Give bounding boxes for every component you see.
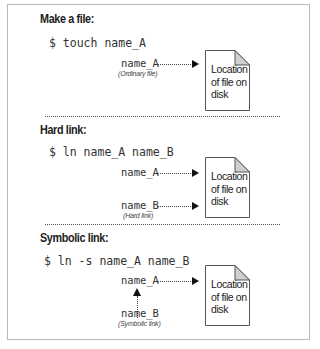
section-heading-symbolic-link: Symbolic link: — [40, 231, 108, 245]
filename-name-b: name_B — [121, 307, 159, 319]
file-location-label: Location of file on disk — [211, 278, 251, 316]
arrow-line — [157, 206, 193, 207]
command-touch: $ touch name_A — [49, 36, 146, 50]
arrowhead-right-icon — [192, 60, 199, 68]
file-document-icon: Location of file on disk — [205, 157, 250, 218]
arrowhead-up-icon — [133, 288, 141, 296]
filename-name-a: name_A — [121, 166, 159, 178]
filename-name-a: name_A — [121, 274, 159, 286]
caption-ordinary-file: (Ordinary file) — [118, 70, 157, 77]
section-heading-hard-link: Hard link: — [40, 123, 86, 137]
filename-name-b: name_B — [121, 199, 159, 211]
caption-symbolic-link: (Symbolic link) — [118, 320, 161, 327]
command-ln-s: $ ln -s name_A name_B — [44, 254, 189, 268]
arrow-line — [157, 281, 193, 282]
section-divider — [45, 224, 280, 225]
section-heading-make-file: Make a file: — [40, 12, 94, 26]
arrow-line — [157, 173, 193, 174]
file-location-label: Location of file on disk — [211, 170, 251, 208]
caption-hard-link: (Hard link) — [123, 212, 153, 219]
arrowhead-right-icon — [192, 169, 199, 177]
arrowhead-right-icon — [192, 202, 199, 210]
section-divider — [45, 116, 280, 117]
file-location-label: Location of file on disk — [211, 63, 251, 101]
command-ln: $ ln name_A name_B — [49, 145, 174, 159]
arrowhead-right-icon — [192, 277, 199, 285]
arrow-line — [157, 64, 193, 65]
file-document-icon: Location of file on disk — [205, 265, 250, 326]
filename-name-a: name_A — [121, 57, 159, 69]
file-document-icon: Location of file on disk — [205, 50, 250, 111]
